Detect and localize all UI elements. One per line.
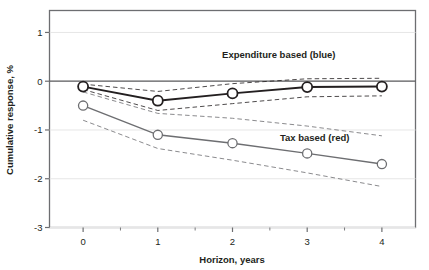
x-tick-label: 4 (379, 236, 384, 247)
y-tick-label: -2 (34, 173, 42, 184)
data-point-marker (228, 139, 237, 148)
data-point-marker (153, 130, 162, 139)
data-point-marker (377, 160, 386, 169)
x-tick-label: 3 (305, 236, 310, 247)
chart-figure: 10-1-2-3 01234 Expenditure based (blue)T… (0, 0, 429, 270)
data-point-marker (79, 101, 88, 110)
data-point-marker (228, 88, 238, 98)
plot-frame (50, 11, 416, 228)
data-point-marker (78, 82, 88, 92)
x-tick-label: 1 (155, 236, 160, 247)
y-tick-label: -3 (34, 222, 42, 233)
y-tick-label: -1 (34, 124, 42, 135)
data-point-marker (303, 149, 312, 158)
series-annotation-label: Tax based (red) (280, 132, 350, 143)
y-tick-label: 1 (37, 27, 42, 38)
data-point-marker (377, 82, 387, 92)
x-tick-label: 2 (230, 236, 235, 247)
x-tick-label: 0 (80, 236, 85, 247)
y-tick-label: 0 (37, 76, 42, 87)
data-point-marker (302, 82, 312, 92)
series-annotation-label: Expenditure based (blue) (222, 49, 336, 60)
y-axis-title: Cumulative response, % (4, 65, 15, 175)
cumulative-response-line-chart: 10-1-2-3 01234 Expenditure based (blue)T… (0, 0, 429, 270)
data-point-marker (153, 96, 163, 106)
x-axis-title: Horizon, years (199, 254, 264, 265)
